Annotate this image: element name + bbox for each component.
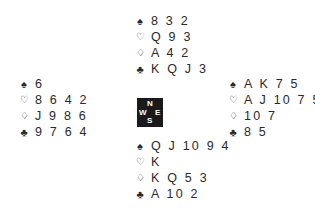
west-hearts-row: ♡ 8 6 4 2 — [18, 92, 89, 108]
north-diamonds-cards: A 4 2 — [151, 45, 191, 61]
west-hearts-cards: 8 6 4 2 — [35, 92, 89, 108]
east-hearts-row: ♡ A J 10 7 5 — [227, 92, 315, 108]
north-spades-row: ♠ 8 3 2 — [134, 13, 208, 29]
spade-icon: ♠ — [134, 13, 146, 29]
south-hearts-cards: K — [151, 154, 162, 170]
south-diamonds-cards: K Q 5 3 — [151, 170, 209, 186]
west-spades-cards: 6 — [35, 76, 44, 92]
heart-icon: ♡ — [134, 154, 146, 170]
south-diamonds-row: ♢ K Q 5 3 — [134, 170, 231, 186]
south-hearts-row: ♡ K — [134, 154, 231, 170]
heart-icon: ♡ — [227, 92, 239, 108]
south-clubs-cards: A 10 2 — [151, 186, 200, 202]
west-hand: ♠ 6 ♡ 8 6 4 2 ♢ J 9 8 6 ♣ 9 7 6 4 — [18, 76, 89, 140]
spade-icon: ♠ — [18, 76, 30, 92]
compass-north-label: N — [147, 100, 153, 108]
east-clubs-row: ♣ 8 5 — [227, 124, 315, 140]
diamond-icon: ♢ — [134, 170, 146, 186]
west-clubs-cards: 9 7 6 4 — [35, 124, 89, 140]
club-icon: ♣ — [134, 61, 146, 77]
north-clubs-cards: K Q J 3 — [151, 61, 208, 77]
north-hearts-row: ♡ Q 9 3 — [134, 29, 208, 45]
east-hearts-cards: A J 10 7 5 — [244, 92, 315, 108]
west-clubs-row: ♣ 9 7 6 4 — [18, 124, 89, 140]
compass-south-label: S — [147, 117, 152, 125]
compass-east-label: E — [155, 109, 160, 117]
east-diamonds-cards: 10 7 — [244, 108, 277, 124]
north-hand: ♠ 8 3 2 ♡ Q 9 3 ♢ A 4 2 ♣ K Q J 3 — [134, 13, 208, 77]
club-icon: ♣ — [134, 186, 146, 202]
diamond-icon: ♢ — [18, 108, 30, 124]
north-clubs-row: ♣ K Q J 3 — [134, 61, 208, 77]
east-clubs-cards: 8 5 — [244, 124, 268, 140]
east-diamonds-row: ♢ 10 7 — [227, 108, 315, 124]
diamond-icon: ♢ — [227, 108, 239, 124]
west-diamonds-cards: J 9 8 6 — [35, 108, 88, 124]
east-spades-cards: A K 7 5 — [244, 76, 300, 92]
spade-icon: ♠ — [134, 138, 146, 154]
west-diamonds-row: ♢ J 9 8 6 — [18, 108, 89, 124]
heart-icon: ♡ — [134, 29, 146, 45]
heart-icon: ♡ — [18, 92, 30, 108]
club-icon: ♣ — [18, 124, 30, 140]
south-spades-row: ♠ Q J 10 9 4 — [134, 138, 231, 154]
compass-west-label: W — [139, 109, 147, 117]
south-clubs-row: ♣ A 10 2 — [134, 186, 231, 202]
spade-icon: ♠ — [227, 76, 239, 92]
east-hand: ♠ A K 7 5 ♡ A J 10 7 5 ♢ 10 7 ♣ 8 5 — [227, 76, 315, 140]
south-spades-cards: Q J 10 9 4 — [151, 138, 231, 154]
north-diamonds-row: ♢ A 4 2 — [134, 45, 208, 61]
diamond-icon: ♢ — [134, 45, 146, 61]
south-hand: ♠ Q J 10 9 4 ♡ K ♢ K Q 5 3 ♣ A 10 2 — [134, 138, 231, 202]
compass-box: N W E S — [137, 98, 163, 127]
north-hearts-cards: Q 9 3 — [151, 29, 193, 45]
west-spades-row: ♠ 6 — [18, 76, 89, 92]
north-spades-cards: 8 3 2 — [151, 13, 190, 29]
east-spades-row: ♠ A K 7 5 — [227, 76, 315, 92]
